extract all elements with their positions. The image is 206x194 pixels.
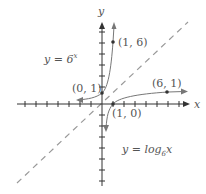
label-1-0: (1, 0) — [112, 107, 142, 120]
label-exponential: y = 6x — [43, 52, 77, 66]
label-6-1: (6, 1) — [152, 77, 182, 90]
label-0-1: (0, 1) — [72, 82, 102, 95]
function-inverse-diagram: x y — [0, 0, 206, 194]
x-axis-label: x — [194, 98, 201, 111]
label-1-6: (1, 6) — [118, 36, 148, 49]
point-6-1 — [165, 90, 169, 94]
y-axis-label: y — [97, 5, 105, 18]
point-1-6 — [111, 40, 115, 44]
label-logarithm: y = log6x — [121, 143, 173, 158]
x-axis — [17, 101, 190, 107]
point-1-0 — [111, 102, 115, 106]
